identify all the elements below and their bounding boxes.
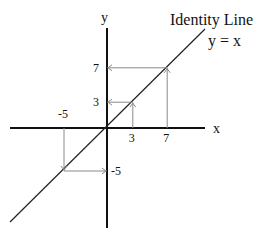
x-tick-label--5: -5 (58, 107, 68, 121)
equation-label: y = x (208, 32, 241, 50)
y-tick-label-3: 3 (93, 95, 99, 109)
y-tick-label-7: 7 (93, 61, 99, 75)
x-axis-label: x (213, 121, 220, 136)
y-axis-label: y (101, 10, 108, 25)
diagram-title: Identity Line (170, 11, 253, 29)
identity-line-diagram: x y Identity Line y = x 7733-5-5 (0, 0, 261, 236)
x-tick-label-3: 3 (129, 131, 135, 145)
y-tick-label--5: -5 (111, 164, 121, 178)
x-tick-label-7: 7 (163, 131, 169, 145)
